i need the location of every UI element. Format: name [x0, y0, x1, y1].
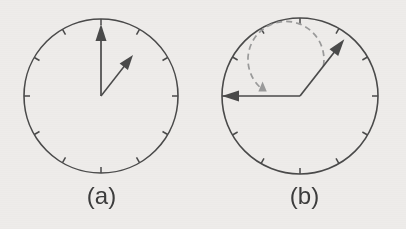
panel-a: (a) [0, 0, 203, 229]
tick-mark [261, 158, 264, 163]
diagonal-up-right-arrow-head [120, 55, 133, 70]
tick-mark [137, 157, 140, 162]
diagonal-up-right-arrow-head [330, 39, 345, 56]
diagonal-up-right-arrow-shaft [101, 64, 126, 96]
tick-mark [34, 132, 39, 135]
tick-mark [162, 58, 167, 61]
tick-mark [336, 28, 339, 33]
diagonal-up-right-arrow-shaft [300, 50, 336, 96]
tick-mark [137, 29, 140, 34]
tick-mark [34, 58, 39, 61]
tick-mark [162, 132, 167, 135]
tick-mark [362, 132, 367, 135]
figure-container: (a) (b) [0, 0, 406, 229]
horizontal-left-arrow-head [222, 91, 239, 102]
panel-b-label: (b) [203, 182, 406, 210]
tick-mark [63, 29, 66, 34]
panel-a-label: (a) [0, 182, 203, 210]
tick-mark [362, 57, 367, 60]
tick-mark [232, 57, 237, 60]
tick-mark [336, 158, 339, 163]
tick-mark [63, 157, 66, 162]
vertical-up-arrow-head [96, 24, 107, 41]
panel-b: (b) [203, 0, 406, 229]
tick-mark [232, 132, 237, 135]
